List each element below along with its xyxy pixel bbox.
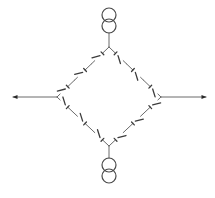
conductor-line: [109, 47, 116, 53]
transformer-top-symbol: [102, 8, 116, 47]
transformers-layer: [102, 8, 116, 183]
ring-edges-layer: [57, 47, 161, 146]
edge-top-right: [109, 47, 161, 97]
conductor-line: [74, 77, 77, 80]
switch-blade-icon: [75, 72, 83, 74]
edge-top-left: [57, 47, 109, 97]
switch-blade-icon: [135, 119, 143, 121]
switch-blade-icon: [153, 103, 161, 105]
conductor-line: [109, 140, 116, 146]
conductor-line: [126, 123, 133, 129]
switch-blade-icon: [118, 56, 120, 64]
transformer-winding-icon: [102, 158, 116, 172]
conductor-line: [68, 80, 75, 86]
switch-blade-icon: [92, 56, 100, 58]
conductor-line: [126, 64, 133, 70]
switch-blade-icon: [118, 136, 126, 138]
switch-blade-icon: [57, 89, 65, 91]
switch-blade-icon: [153, 89, 155, 97]
conductor-line: [85, 64, 92, 70]
conductor-line: [102, 140, 109, 146]
conductor-line: [144, 107, 151, 113]
switch-blade-icon: [135, 72, 137, 80]
conductor-line: [158, 97, 161, 100]
conductor-line: [92, 61, 95, 64]
transformer-winding-icon: [102, 169, 116, 183]
edge-bottom-right: [109, 97, 161, 146]
edge-bottom-left: [57, 97, 109, 146]
switch-blade-icon: [80, 113, 82, 121]
conductor-line: [92, 130, 95, 133]
transformer-winding-icon: [102, 8, 116, 22]
conductor-line: [85, 123, 92, 129]
conductor-line: [144, 80, 151, 86]
transformer-bottom-symbol: [102, 146, 116, 183]
switch-blade-icon: [98, 130, 100, 138]
conductor-line: [141, 77, 144, 80]
conductor-line: [158, 94, 161, 97]
conductor-line: [102, 47, 109, 53]
ring-network-diagram: [0, 0, 215, 198]
conductor-line: [123, 130, 126, 133]
switch-blade-icon: [63, 97, 65, 105]
conductor-line: [57, 97, 60, 100]
conductor-line: [123, 61, 126, 64]
transformer-winding-icon: [102, 19, 116, 33]
conductor-line: [68, 107, 75, 113]
conductor-line: [57, 94, 60, 97]
conductor-line: [74, 113, 77, 116]
conductor-line: [141, 113, 144, 116]
